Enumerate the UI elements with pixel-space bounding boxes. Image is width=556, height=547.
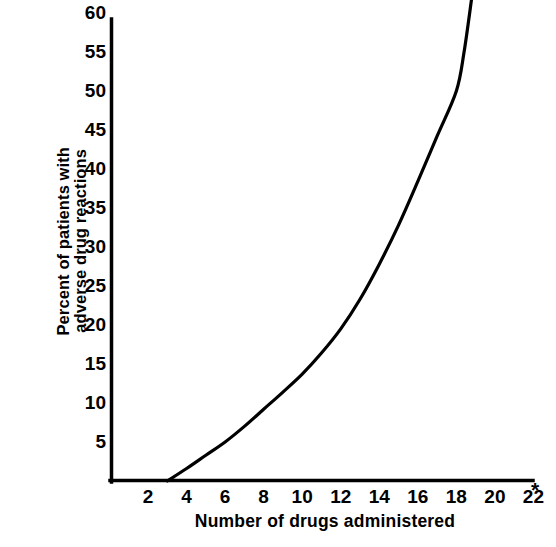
axis-lines xyxy=(110,19,533,482)
data-series-curve xyxy=(167,0,471,481)
chart-figure: Percent of patients with adverse drug re… xyxy=(0,0,556,547)
plot-area xyxy=(0,0,556,547)
x-axis-title: Number of drugs administered xyxy=(110,513,540,531)
